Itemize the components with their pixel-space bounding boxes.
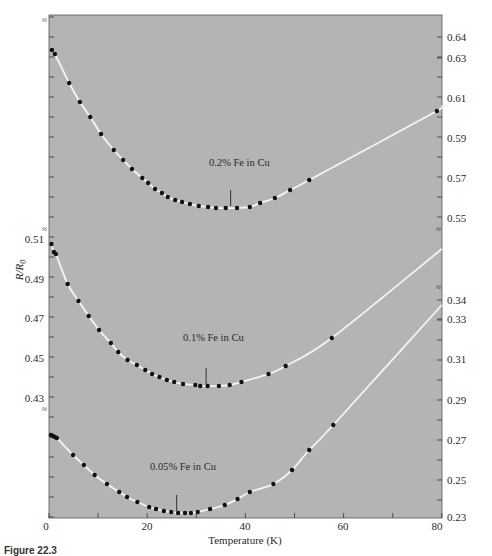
- data-point: [248, 205, 252, 209]
- label-02-fe: 0.2% Fe in Cu: [209, 157, 270, 168]
- data-point: [55, 436, 59, 440]
- data-point: [49, 242, 53, 246]
- right-tick-059: 0.59: [447, 132, 467, 144]
- data-point: [288, 188, 292, 192]
- data-point: [150, 372, 154, 376]
- data-point: [227, 383, 231, 387]
- right-tick-063: 0.63: [447, 52, 467, 64]
- right-tick-031: 0.31: [447, 353, 466, 365]
- data-point: [88, 115, 92, 119]
- data-point: [154, 507, 158, 511]
- figure-caption: Figure 22.3: [4, 545, 57, 556]
- axis-break-right-upper: ≈: [436, 224, 441, 234]
- data-point: [166, 195, 170, 199]
- right-tick-025: 0.25: [447, 474, 467, 486]
- left-tick-047: 0.47: [25, 312, 45, 324]
- data-point: [125, 358, 129, 362]
- data-point: [109, 341, 113, 345]
- data-point: [307, 448, 311, 452]
- data-point: [173, 198, 177, 202]
- data-point: [248, 490, 252, 494]
- right-tick-027: 0.27: [447, 434, 467, 446]
- right-tick-061: 0.61: [447, 92, 466, 104]
- data-point: [92, 473, 96, 477]
- data-point: [165, 378, 169, 382]
- data-point: [169, 510, 173, 514]
- data-point: [146, 181, 150, 185]
- left-tick-051: 0.51: [25, 233, 44, 245]
- data-point: [125, 495, 129, 499]
- label-01-fe: 0.1% Fe in Cu: [183, 332, 244, 343]
- plot-area: [49, 15, 442, 518]
- x-tick-0: 0: [43, 520, 49, 532]
- right-tick-023: 0.23: [447, 511, 467, 523]
- data-point: [54, 252, 58, 256]
- data-point: [214, 206, 218, 210]
- data-point: [235, 206, 239, 210]
- data-point: [258, 201, 262, 205]
- right-tick-029: 0.29: [447, 394, 467, 406]
- axis-break-left-top: ≈: [42, 15, 47, 25]
- x-axis-title: Temperature (K): [208, 534, 282, 547]
- data-point: [188, 202, 192, 206]
- data-point: [76, 299, 80, 303]
- right-tick-055: 0.55: [447, 212, 467, 224]
- data-point: [53, 52, 57, 56]
- right-tick-034: 0.34: [447, 294, 467, 306]
- data-point: [97, 328, 101, 332]
- data-point: [290, 468, 294, 472]
- data-point: [82, 463, 86, 467]
- data-point: [50, 48, 54, 52]
- axis-break-right-lower: ≈: [436, 282, 441, 292]
- data-point: [208, 507, 212, 511]
- data-point: [157, 375, 161, 379]
- data-point: [180, 200, 184, 204]
- x-tick-60: 60: [338, 520, 350, 532]
- data-point: [183, 511, 187, 515]
- data-point: [112, 148, 116, 152]
- data-point: [117, 490, 121, 494]
- x-tick-20: 20: [142, 520, 154, 532]
- left-tick-045: 0.45: [25, 352, 45, 364]
- data-point: [283, 364, 287, 368]
- axis-break-left-low: ≈: [42, 404, 47, 414]
- data-point: [87, 314, 91, 318]
- data-point: [193, 383, 197, 387]
- data-point: [273, 196, 277, 200]
- data-point: [162, 509, 166, 513]
- data-point: [181, 382, 185, 386]
- data-point: [205, 384, 209, 388]
- data-point: [65, 282, 69, 286]
- x-tick-40: 40: [240, 520, 252, 532]
- data-point: [271, 482, 275, 486]
- axis-break-left-mid: ≈: [42, 224, 47, 234]
- data-point: [176, 511, 180, 515]
- data-point: [99, 132, 103, 136]
- right-tick-033: 0.33: [447, 313, 467, 325]
- left-tick-049: 0.49: [25, 273, 45, 285]
- data-point: [143, 368, 147, 372]
- data-point: [198, 384, 202, 388]
- data-point: [67, 81, 71, 85]
- data-point: [206, 205, 210, 209]
- data-point: [135, 363, 139, 367]
- data-point: [153, 187, 157, 191]
- data-point: [197, 204, 201, 208]
- data-point: [116, 350, 120, 354]
- data-point: [135, 500, 139, 504]
- data-point: [331, 423, 335, 427]
- data-point: [71, 453, 75, 457]
- data-point: [307, 178, 311, 182]
- data-point: [196, 510, 200, 514]
- data-point: [121, 158, 125, 162]
- data-point: [239, 380, 243, 384]
- data-point: [435, 109, 439, 113]
- data-point: [78, 100, 82, 104]
- data-point: [140, 176, 144, 180]
- label-005-fe: 0.05% Fe in Cu: [150, 461, 217, 472]
- data-point: [189, 511, 193, 515]
- right-tick-064: 0.64: [447, 31, 467, 43]
- right-tick-057: 0.57: [447, 172, 467, 184]
- x-tick-80: 80: [432, 520, 444, 532]
